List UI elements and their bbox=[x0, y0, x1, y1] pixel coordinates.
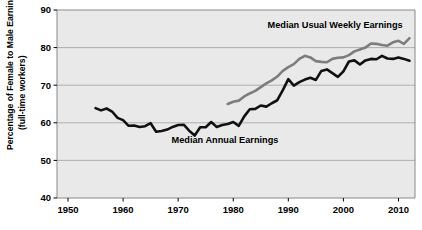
x-tick-label-2000: 2000 bbox=[333, 204, 354, 215]
y-tick-label-90: 90 bbox=[40, 4, 51, 15]
annotation-median-annual-earnings: Median Annual Earnings bbox=[172, 135, 279, 145]
x-tick-label-1980: 1980 bbox=[223, 204, 244, 215]
x-tick-label-1950: 1950 bbox=[57, 204, 78, 215]
earnings-ratio-line-chart: 1950196019701980199020002010 40506070809… bbox=[0, 0, 422, 230]
x-tick-label-1960: 1960 bbox=[113, 204, 134, 215]
x-tick-label-1970: 1970 bbox=[168, 204, 189, 215]
y-axis-title-line-2: (full-time workers) bbox=[17, 55, 27, 130]
annotation-median-usual-weekly-earnings: Median Usual Weekly Earnings bbox=[268, 20, 403, 30]
y-tick-label-40: 40 bbox=[40, 192, 51, 203]
x-tick-label-2010: 2010 bbox=[388, 204, 409, 215]
x-tick-label-1990: 1990 bbox=[278, 204, 299, 215]
plot-area-background bbox=[57, 10, 415, 198]
y-tick-label-80: 80 bbox=[40, 42, 51, 53]
chart-container: 1950196019701980199020002010 40506070809… bbox=[0, 0, 422, 230]
y-tick-label-70: 70 bbox=[40, 80, 51, 91]
y-axis-title-line-1: Percentage of Female to Male Earnings bbox=[5, 0, 15, 150]
y-tick-label-60: 60 bbox=[40, 117, 51, 128]
y-tick-label-50: 50 bbox=[40, 155, 51, 166]
